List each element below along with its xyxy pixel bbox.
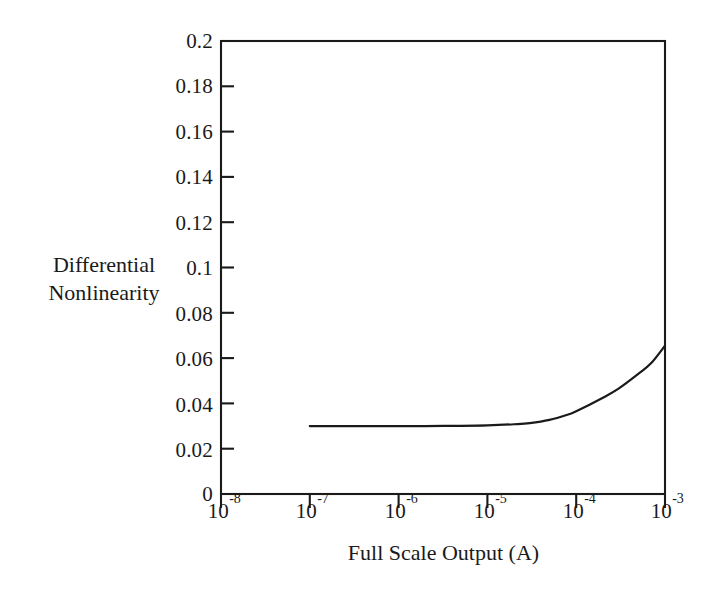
y-axis-ticks bbox=[221, 86, 234, 448]
figure: 0.2 0.18 0.16 0.14 0.12 0.1 0.08 0.06 0.… bbox=[0, 0, 723, 593]
plot-area bbox=[0, 0, 723, 593]
x-axis-ticks bbox=[221, 494, 665, 508]
data-series-line bbox=[310, 346, 665, 426]
